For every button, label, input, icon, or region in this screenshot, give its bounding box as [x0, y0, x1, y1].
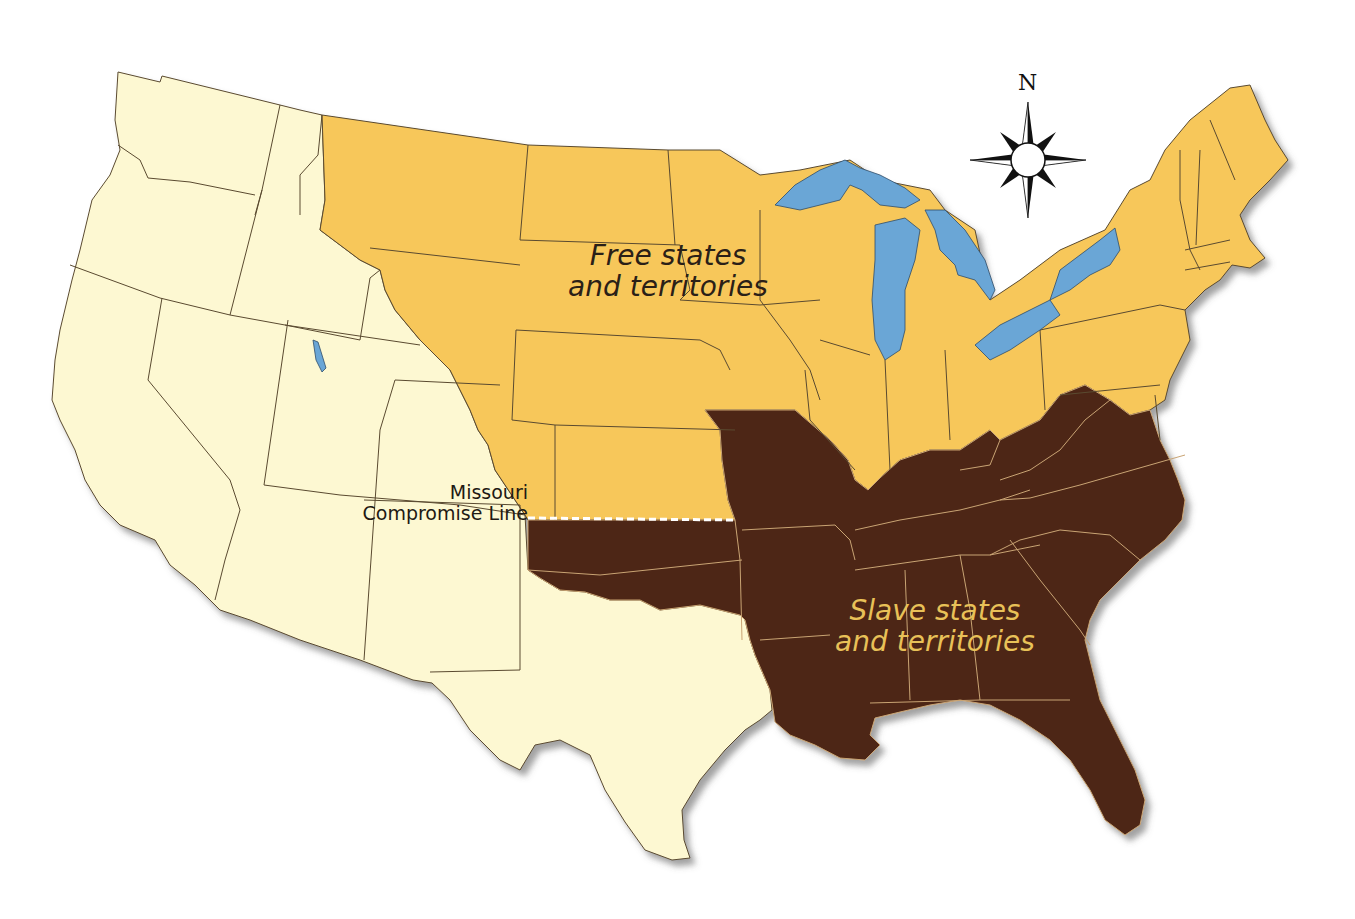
us-map: [0, 0, 1355, 919]
slave-states-label: Slave states and territories: [810, 595, 1060, 658]
missouri-compromise-label: Missouri Compromise Line: [316, 482, 528, 525]
missouri-compromise-label-line2: Compromise Line: [316, 503, 528, 524]
free-states-label-line2: and territories: [548, 271, 788, 302]
missouri-compromise-label-line1: Missouri: [316, 482, 528, 503]
free-states-label-line1: Free states: [548, 240, 788, 271]
compass-north-label: N: [1018, 70, 1037, 95]
compass-rose-icon: [970, 102, 1086, 218]
slave-states-label-line1: Slave states: [810, 595, 1060, 626]
slave-states-label-line2: and territories: [810, 626, 1060, 657]
free-states-label: Free states and territories: [548, 240, 788, 303]
